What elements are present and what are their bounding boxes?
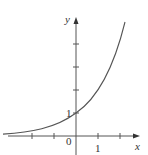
x-tick-label-1: 1 (95, 142, 101, 154)
exponential-graph: y x 0 1 1 (0, 0, 148, 155)
y-tick-label-1: 1 (66, 107, 72, 119)
exponential-curve (3, 22, 125, 134)
origin-label: 0 (66, 135, 72, 147)
y-axis-label: y (64, 13, 70, 25)
x-axis-label: x (134, 140, 140, 152)
y-axis-arrow-icon (74, 17, 79, 24)
x-axis-arrow-icon (133, 134, 140, 139)
